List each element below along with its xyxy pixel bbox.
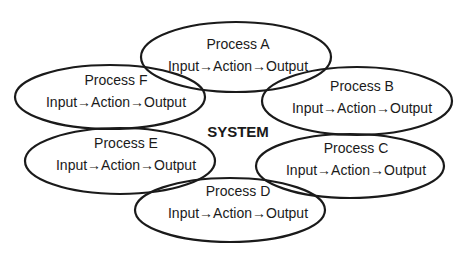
system-process-diagram: Process A Input→Action→Output Process F … bbox=[0, 0, 468, 260]
process-f-title: Process F bbox=[84, 72, 147, 88]
process-e-flow: Input→Action→Output bbox=[56, 157, 196, 173]
process-e-title: Process E bbox=[94, 135, 158, 151]
process-a-title: Process A bbox=[206, 36, 270, 52]
process-f-flow: Input→Action→Output bbox=[46, 94, 186, 110]
process-e: Process E Input→Action→Output bbox=[25, 128, 215, 194]
process-c-flow: Input→Action→Output bbox=[286, 162, 426, 178]
process-d-title: Process D bbox=[206, 183, 271, 199]
process-c: Process C Input→Action→Output bbox=[256, 134, 444, 198]
process-a-ellipse bbox=[141, 22, 331, 92]
process-a: Process A Input→Action→Output bbox=[141, 22, 331, 92]
system-label: SYSTEM bbox=[207, 123, 269, 140]
process-b: Process B Input→Action→Output bbox=[262, 67, 452, 135]
process-b-title: Process B bbox=[330, 78, 394, 94]
process-c-title: Process C bbox=[324, 140, 389, 156]
process-a-flow: Input→Action→Output bbox=[168, 58, 308, 74]
process-f: Process F Input→Action→Output bbox=[15, 65, 205, 129]
process-d: Process D Input→Action→Output bbox=[135, 178, 325, 242]
process-d-flow: Input→Action→Output bbox=[168, 205, 308, 221]
process-b-flow: Input→Action→Output bbox=[292, 100, 432, 116]
